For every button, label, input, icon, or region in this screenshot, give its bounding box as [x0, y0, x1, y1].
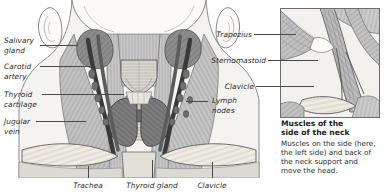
leader-clavicle	[212, 162, 213, 178]
ear-right	[216, 8, 240, 48]
label-carotid-artery: Carotid artery	[4, 62, 31, 81]
leader-jugular-vein	[36, 121, 86, 122]
label-clavicle-inset: Clavicle	[198, 82, 254, 92]
caption-body: Muscles on the side (here, the left side…	[281, 139, 384, 176]
label-thyroid-gland: Thyroid gland	[116, 181, 188, 191]
leader-trapezius	[254, 34, 296, 35]
label-lymph-nodes: Lymph nodes	[212, 96, 237, 115]
label-clavicle: Clavicle	[186, 181, 238, 191]
thyroid-isthmus	[137, 110, 141, 122]
leader-thyroid-gland	[152, 160, 153, 178]
label-trapezius: Trapezius	[194, 30, 252, 40]
leader-sternomastoid	[268, 60, 318, 61]
leader-salivary-gland	[40, 45, 78, 46]
ear-left	[38, 8, 62, 48]
label-thyroid-cartilage: Thyroid cartilage	[4, 90, 37, 109]
leader-carotid-artery	[40, 66, 90, 67]
cricothyroid-membrane	[126, 92, 152, 104]
leader-clavicle-inset	[256, 86, 314, 87]
label-sternomastoid: Sternomastoid	[196, 56, 266, 66]
manubrium	[122, 152, 156, 178]
lateral-neck-inset-illustration	[280, 8, 380, 118]
label-salivary-gland: Salivary gland	[4, 36, 34, 55]
leader-trachea	[88, 166, 89, 178]
figure-neck-anatomy: Salivary gland Carotid artery Thyroid ca…	[0, 0, 385, 195]
inset-caption: Muscles of the side of the neck Muscles …	[281, 119, 384, 176]
label-trachea: Trachea	[60, 181, 116, 191]
leader-thyroid-cartilage	[42, 94, 124, 95]
caption-heading: Muscles of the side of the neck	[281, 119, 384, 138]
label-jugular-vein: Jugular vein	[4, 117, 30, 136]
leader-lymph-nodes	[186, 101, 208, 102]
salivary-gland-left	[77, 30, 113, 69]
